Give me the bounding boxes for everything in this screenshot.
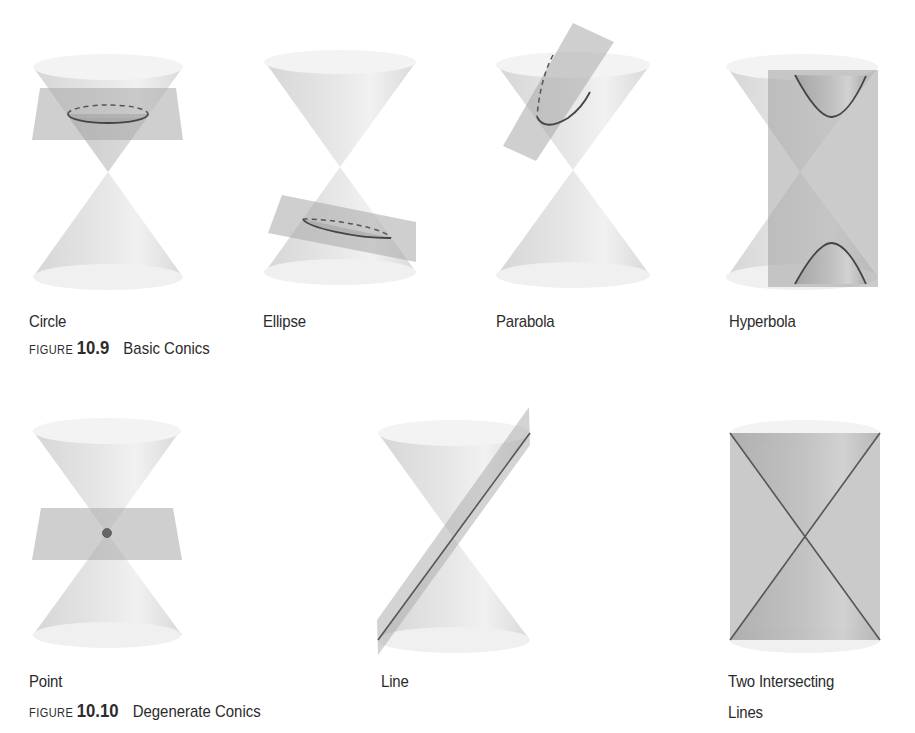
ellipse-figure xyxy=(264,50,416,285)
label-two-lines-2: Lines xyxy=(728,703,763,723)
label-parabola: Parabola xyxy=(496,312,554,332)
figure-word: FIGURE xyxy=(29,343,73,357)
upper-nappe xyxy=(265,62,416,167)
lower-nappe xyxy=(497,170,650,275)
figure-number: 10.10 xyxy=(77,700,119,721)
hyperbola-figure xyxy=(726,54,878,290)
label-circle: Circle xyxy=(29,312,66,332)
line-figure xyxy=(377,407,530,655)
point-marker xyxy=(103,529,112,538)
lower-rim xyxy=(264,259,416,285)
lower-rim xyxy=(33,264,183,290)
circle-figure xyxy=(32,54,183,290)
upper-rim xyxy=(33,418,181,444)
lower-rim xyxy=(33,622,181,648)
label-ellipse: Ellipse xyxy=(263,312,306,332)
figure-word: FIGURE xyxy=(29,706,73,720)
upper-rim xyxy=(264,50,416,74)
conic-illustrations xyxy=(0,0,915,733)
lower-nappe xyxy=(33,172,183,277)
label-hyperbola: Hyperbola xyxy=(729,312,796,332)
label-line: Line xyxy=(381,672,409,692)
figure-caption-basic: FIGURE10.9Basic Conics xyxy=(29,337,210,359)
point-figure xyxy=(32,418,182,648)
figure-title: Basic Conics xyxy=(123,339,209,358)
parabola-figure xyxy=(496,23,650,288)
cone-section-inside xyxy=(69,118,147,172)
label-point: Point xyxy=(29,672,62,692)
figure-number: 10.9 xyxy=(77,337,110,358)
figure-title: Degenerate Conics xyxy=(133,702,261,721)
two-lines-figure xyxy=(730,420,880,653)
upper-rim xyxy=(33,54,183,80)
lower-rim xyxy=(496,262,650,288)
lower-rim xyxy=(378,627,530,653)
label-two-lines-1: Two Intersecting xyxy=(728,672,834,692)
figure-caption-degenerate: FIGURE10.10Degenerate Conics xyxy=(29,700,261,722)
